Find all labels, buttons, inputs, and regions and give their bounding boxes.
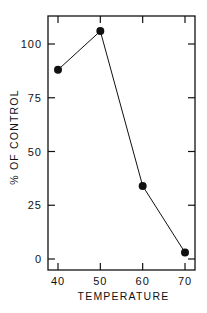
y-tick-label: 75 <box>28 92 42 104</box>
series-group <box>54 27 189 256</box>
y-tick-label: 0 <box>35 253 42 265</box>
x-tick-label: 60 <box>136 275 150 287</box>
y-tick-label: 100 <box>21 38 42 50</box>
y-axis: 0255075100 <box>21 38 195 265</box>
y-tick-label: 25 <box>28 199 42 211</box>
x-tick-label: 50 <box>93 275 107 287</box>
x-tick-label: 70 <box>178 275 192 287</box>
data-point <box>139 182 147 190</box>
series-line <box>58 31 185 252</box>
y-axis-label: % OF CONTROL <box>8 89 20 185</box>
x-tick-label: 40 <box>51 275 65 287</box>
data-point <box>54 66 62 74</box>
x-axis-label: TEMPERATURE <box>78 290 170 302</box>
chart: 0255075100 40506070 TEMPERATURE % OF CON… <box>0 0 207 313</box>
y-tick-label: 50 <box>28 146 42 158</box>
data-point <box>96 27 104 35</box>
plot-frame <box>48 16 195 270</box>
data-point <box>181 249 189 257</box>
